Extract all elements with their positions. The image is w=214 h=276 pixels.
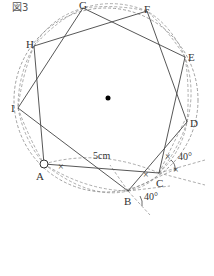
equal-mark: × xyxy=(165,151,171,162)
angle-arc-b xyxy=(140,196,142,206)
point-a-marker xyxy=(40,160,48,168)
figure-title: 図3 xyxy=(12,2,28,13)
vertex-label-d: D xyxy=(190,117,198,129)
vertex-label-i: I xyxy=(11,102,15,114)
vertex-label-b: B xyxy=(124,195,131,207)
center-dot xyxy=(106,96,111,101)
vertex-label-a: A xyxy=(36,170,44,182)
vertex-label-c: C xyxy=(156,177,163,189)
construction-arcs xyxy=(18,4,205,215)
vertex-label-g: G xyxy=(79,0,87,11)
star-polygon-diagram: 図3 xyxy=(0,0,214,276)
equal-mark: × xyxy=(58,161,64,172)
angle-label-b: 40° xyxy=(144,191,158,202)
angle-label-c: 40° xyxy=(178,151,192,162)
vertex-label-f: F xyxy=(144,3,150,15)
vertex-label-e: E xyxy=(188,51,195,63)
equal-mark: × xyxy=(173,164,179,175)
vertex-label-h: H xyxy=(26,38,34,50)
length-label: 5cm xyxy=(93,150,110,161)
equal-mark: × xyxy=(143,169,149,180)
